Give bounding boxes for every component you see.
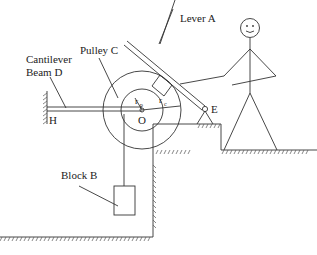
label-radius-c-sub: c [164, 101, 167, 107]
mechanism-diagram: Lever A Pulley C Cantilever Beam D Block… [0, 0, 317, 255]
cantilever-beam-d [47, 107, 142, 111]
label-block-b: Block B [61, 169, 97, 181]
label-radius-p-sub: p [140, 102, 143, 108]
person-leg-right [250, 93, 277, 150]
label-cantilever: Cantilever [26, 53, 72, 65]
label-support-h: H [49, 114, 57, 126]
person-leg-left [224, 93, 250, 150]
label-pulley-c: Pulley C [80, 44, 118, 56]
label-pivot-e: E [211, 103, 218, 115]
radius-c-line [142, 106, 180, 110]
label-lever-a: Lever A [180, 12, 216, 24]
stick-figure-person [180, 19, 277, 151]
person-arm-right [232, 49, 276, 85]
person-arm-left [180, 49, 250, 84]
wall-support-h [43, 91, 47, 124]
ground-profile [0, 124, 317, 241]
label-center-o: O [138, 114, 146, 126]
brake-pad [152, 75, 172, 96]
block-b [114, 186, 135, 215]
label-beam-d: Beam D [26, 66, 62, 78]
person-head [241, 19, 260, 38]
label-radius-c: r [159, 95, 162, 105]
label-radius-p: r [135, 96, 138, 106]
